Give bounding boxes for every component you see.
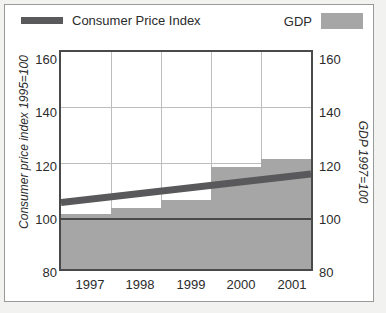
- y-axis-right-tick-140: 140: [319, 106, 359, 119]
- y-axis-right-tick-120: 120: [319, 160, 359, 173]
- y-axis-right-tick-80: 80: [319, 266, 359, 279]
- y-axis-left-tick-80: 80: [17, 266, 57, 279]
- cpi-line-path: [61, 174, 311, 202]
- cpi-line-series: [61, 52, 311, 269]
- figure-background: Consumer Price Index GDP 160 140 120 100…: [0, 0, 386, 313]
- x-axis-tick-2001: 2001: [262, 277, 322, 292]
- y-axis-left-title: Consumer price index 1995=100: [17, 47, 31, 237]
- y-axis-right-tick-100: 100: [319, 213, 359, 226]
- y-axis-right-tick-160: 160: [319, 53, 359, 66]
- plot-area-wrapper: 160 140 120 100 80 160 140 120 100 80 Co…: [5, 5, 375, 303]
- chart-card: Consumer Price Index GDP 160 140 120 100…: [4, 4, 374, 302]
- plot-frame: [59, 50, 313, 271]
- y-axis-right-title: GDP 1997=100: [356, 72, 370, 252]
